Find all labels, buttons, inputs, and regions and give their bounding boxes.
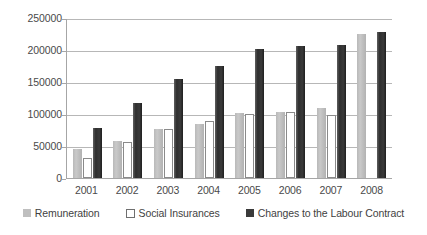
filled-gray-square-icon xyxy=(23,209,31,217)
bar[interactable] xyxy=(327,115,336,178)
y-axis-tick-mark xyxy=(62,179,66,180)
x-axis-tick-label: 2002 xyxy=(107,183,148,199)
bar[interactable] xyxy=(215,66,224,178)
bar[interactable] xyxy=(286,112,295,178)
bar[interactable] xyxy=(377,32,386,178)
y-axis-tick-label: 250000 xyxy=(0,13,62,24)
bar[interactable] xyxy=(154,129,163,178)
bar[interactable] xyxy=(113,141,122,178)
legend-label: Remuneration xyxy=(35,207,100,219)
x-axis-tick-label: 2005 xyxy=(229,183,270,199)
bar[interactable] xyxy=(317,108,326,178)
bar-group xyxy=(189,19,230,178)
legend-label: Changes to the Labour Contract xyxy=(258,207,404,219)
y-axis: 250000 200000 150000 100000 50000 0 xyxy=(0,0,62,196)
y-axis-tick-label: 150000 xyxy=(0,77,62,88)
outlined-white-square-icon xyxy=(126,209,135,218)
x-axis-tick-label: 2008 xyxy=(351,183,392,199)
plot-area xyxy=(66,19,392,179)
bar-group xyxy=(230,19,271,178)
y-axis-tick-label: 100000 xyxy=(0,109,62,120)
y-axis-tick-label: 200000 xyxy=(0,45,62,56)
bar[interactable] xyxy=(93,128,102,178)
bar-groups xyxy=(67,19,392,178)
plot-wrapper: 250000 200000 150000 100000 50000 0 2001 xyxy=(0,0,427,196)
bar[interactable] xyxy=(133,103,142,178)
x-axis: 2001 2002 2003 2004 2005 2006 2007 2008 xyxy=(66,183,392,199)
bar[interactable] xyxy=(73,149,82,178)
bar[interactable] xyxy=(83,158,92,178)
bar[interactable] xyxy=(255,49,264,178)
bar[interactable] xyxy=(357,34,366,178)
bar[interactable] xyxy=(205,121,214,178)
x-axis-tick-label: 2003 xyxy=(148,183,189,199)
bar-group xyxy=(108,19,149,178)
bar[interactable] xyxy=(174,79,183,178)
legend-item-changes-to-labour-contract[interactable]: Changes to the Labour Contract xyxy=(246,207,404,219)
legend-item-remuneration[interactable]: Remuneration xyxy=(23,207,100,219)
bar-group xyxy=(351,19,392,178)
bar[interactable] xyxy=(276,112,285,178)
chart-legend: Remuneration Social Insurances Changes t… xyxy=(0,203,427,223)
legend-label: Social Insurances xyxy=(139,207,220,219)
bar-group xyxy=(148,19,189,178)
bar-chart: 250000 200000 150000 100000 50000 0 2001 xyxy=(0,0,427,235)
bar[interactable] xyxy=(296,46,305,178)
x-axis-tick-label: 2006 xyxy=(270,183,311,199)
filled-dark-square-icon xyxy=(246,209,254,217)
bar[interactable] xyxy=(123,142,132,178)
bar[interactable] xyxy=(235,113,244,178)
bar-group xyxy=(67,19,108,178)
x-axis-tick-label: 2001 xyxy=(66,183,107,199)
y-axis-tick-label: 0 xyxy=(0,173,62,184)
bar-group xyxy=(270,19,311,178)
x-axis-tick-label: 2007 xyxy=(311,183,352,199)
bar[interactable] xyxy=(245,114,254,178)
legend-item-social-insurances[interactable]: Social Insurances xyxy=(126,207,220,219)
bar[interactable] xyxy=(195,124,204,178)
bar-group xyxy=(311,19,352,178)
x-axis-tick-label: 2004 xyxy=(188,183,229,199)
bar[interactable] xyxy=(164,129,173,178)
bar[interactable] xyxy=(337,45,346,178)
y-axis-tick-label: 50000 xyxy=(0,141,62,152)
